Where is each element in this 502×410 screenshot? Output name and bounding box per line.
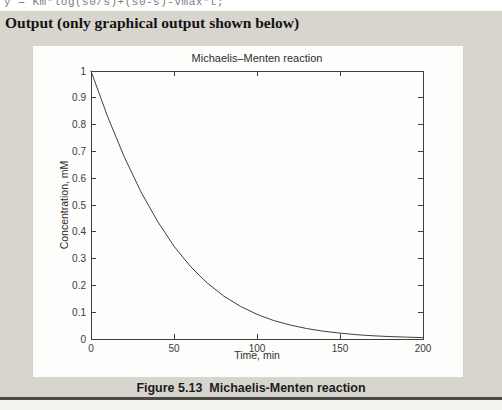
figure-panel: 05010015020000.10.20.30.40.50.60.70.80.9… xyxy=(33,46,463,377)
code-text: y = Km*log(s0/s)+(s0-s)-vmax*t; xyxy=(4,0,224,8)
svg-text:0.8: 0.8 xyxy=(72,119,86,130)
y-axis-label: Concentration, mM xyxy=(58,161,70,250)
svg-text:0.2: 0.2 xyxy=(72,280,86,291)
svg-text:0.5: 0.5 xyxy=(72,200,86,211)
svg-text:0.7: 0.7 xyxy=(72,146,86,157)
plot-canvas: 05010015020000.10.20.30.40.50.60.70.80.9… xyxy=(33,46,463,377)
bottom-margin xyxy=(0,400,502,410)
svg-text:0.6: 0.6 xyxy=(72,173,86,184)
output-heading: Output (only graphical output shown belo… xyxy=(5,14,299,32)
matlab-code-line-clipped: y = Km*log(s0/s)+(s0-s)-vmax*t; xyxy=(0,0,502,11)
output-band: Output (only graphical output shown belo… xyxy=(0,11,502,397)
svg-text:0.4: 0.4 xyxy=(72,226,86,237)
svg-text:0.9: 0.9 xyxy=(72,92,86,103)
textbook-page: y = Km*log(s0/s)+(s0-s)-vmax*t; Output (… xyxy=(0,0,502,410)
plot-title: Michaelis–Menten reaction xyxy=(91,52,423,64)
svg-text:1: 1 xyxy=(80,66,86,77)
x-axis-label: Time, min xyxy=(91,349,423,361)
svg-text:0.1: 0.1 xyxy=(72,307,86,318)
svg-text:0: 0 xyxy=(80,334,86,345)
svg-text:0.3: 0.3 xyxy=(72,253,86,264)
figure-caption: Figure 5.13 Michaelis-Menten reaction xyxy=(0,381,502,395)
